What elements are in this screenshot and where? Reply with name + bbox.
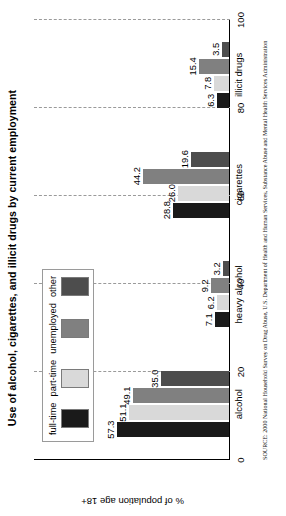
bar-group: 6.37.815.43.5illicit drugs <box>34 20 229 130</box>
bar-part-time-heavy alcohol[interactable]: 6.2 <box>217 295 229 310</box>
legend-swatch <box>61 319 89 338</box>
bar-value-label: 6.3 <box>206 94 216 107</box>
bar-chart-figure: Use of alcohol, cigarettes, and illicit … <box>0 0 286 516</box>
bar-slot: 6.3 <box>34 93 229 108</box>
legend-label: other <box>48 276 58 297</box>
bar-value-label: 7.8 <box>203 77 213 90</box>
category-label-heavy-alcohol: heavy alcohol <box>233 240 244 350</box>
legend-swatch <box>61 369 89 388</box>
bar-slot: 3.5 <box>34 42 229 57</box>
bar-other-illicit drugs[interactable]: 3.5 <box>222 42 229 57</box>
bar-slot: 19.6 <box>34 152 229 167</box>
bar-slot: 7.8 <box>34 76 229 91</box>
bar-slot: 15.4 <box>34 59 229 74</box>
legend-item-other[interactable]: other <box>48 276 89 297</box>
legend-swatch <box>61 277 89 296</box>
bar-value-label: 3.5 <box>211 43 221 56</box>
category-label-alcohol: alcohol <box>233 349 244 459</box>
chart-screenshot: Use of alcohol, cigarettes, and illicit … <box>0 0 286 516</box>
bar-slot: 26.0 <box>34 186 229 201</box>
bar-value-label: 9.2 <box>200 279 210 292</box>
legend-label: part-time <box>48 360 58 397</box>
x-axis-line <box>229 20 230 460</box>
category-label-illicit-drugs: illicit drugs <box>233 20 244 130</box>
legend-label: full-time <box>48 402 58 435</box>
bar-group: 28.826.044.219.6cigarettes <box>34 130 229 240</box>
bar-value-label: 57.3 <box>106 421 116 439</box>
bar-full-time-illicit drugs[interactable]: 6.3 <box>217 93 229 108</box>
legend-item-full-time[interactable]: full-time <box>48 402 89 435</box>
y-axis-label-text: % of population age 18+ <box>81 497 184 508</box>
bar-part-time-illicit drugs[interactable]: 7.8 <box>214 76 229 91</box>
source-note: SOURCE: 2000 National Household Survey o… <box>262 4 268 460</box>
bar-value-label: 49.1 <box>122 387 132 405</box>
bar-value-label: 3.2 <box>212 262 222 275</box>
bar-unemployed-cigarettes[interactable]: 44.2 <box>143 169 229 184</box>
bar-unemployed-heavy alcohol[interactable]: 9.2 <box>211 278 229 293</box>
bar-full-time-cigarettes[interactable]: 28.8 <box>173 203 229 218</box>
bar-other-cigarettes[interactable]: 19.6 <box>191 152 229 167</box>
legend-label: unemployed <box>48 303 58 354</box>
bar-part-time-cigarettes[interactable]: 26.0 <box>178 186 229 201</box>
legend-swatch <box>61 409 89 428</box>
bar-slot: 28.8 <box>34 203 229 218</box>
bar-unemployed-alcohol[interactable]: 49.1 <box>133 388 229 403</box>
y-axis-line <box>34 459 230 460</box>
bar-value-label: 19.6 <box>180 150 190 168</box>
bar-unemployed-illicit drugs[interactable]: 15.4 <box>199 59 229 74</box>
bar-value-label: 28.8 <box>162 201 172 219</box>
bar-other-alcohol[interactable]: 35.0 <box>161 371 229 386</box>
bar-full-time-alcohol[interactable]: 57.3 <box>117 422 229 437</box>
chart-legend: full-timepart-timeunemployedother <box>42 269 94 442</box>
bar-value-label: 26.0 <box>167 184 177 202</box>
bar-value-label: 6.2 <box>206 296 216 309</box>
y-axis-label: % of population age 18+ <box>34 494 230 510</box>
bar-part-time-alcohol[interactable]: 51.1 <box>129 405 229 420</box>
bar-value-label: 44.2 <box>132 167 142 185</box>
bar-full-time-heavy alcohol[interactable]: 7.1 <box>215 312 229 327</box>
bar-other-heavy alcohol[interactable]: 3.2 <box>223 261 229 276</box>
bar-value-label: 35.0 <box>150 370 160 388</box>
rotated-figure-container: Use of alcohol, cigarettes, and illicit … <box>0 0 286 516</box>
bar-value-label: 15.4 <box>188 57 198 75</box>
chart-title: Use of alcohol, cigarettes, and illicit … <box>6 0 18 516</box>
legend-item-part-time[interactable]: part-time <box>48 360 89 397</box>
bar-value-label: 7.1 <box>204 313 214 326</box>
bar-value-label: 51.1 <box>118 404 128 422</box>
bar-slot: 44.2 <box>34 169 229 184</box>
legend-item-unemployed[interactable]: unemployed <box>48 303 89 354</box>
category-label-cigarettes: cigarettes <box>233 130 244 240</box>
